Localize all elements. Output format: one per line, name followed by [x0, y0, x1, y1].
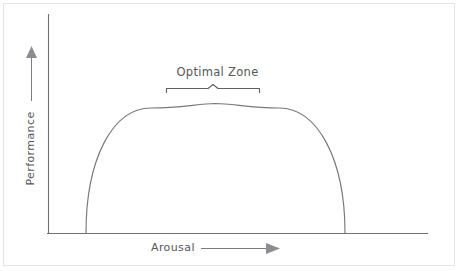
arrow-right-icon	[266, 243, 280, 254]
inverted-u-curve	[86, 104, 345, 234]
optimal-zone-label: Optimal Zone	[155, 65, 280, 79]
y-axis-label: Performance	[24, 94, 37, 204]
plot-svg	[0, 0, 465, 271]
curly-brace-icon	[167, 85, 260, 93]
chart-canvas: Optimal Zone Performance Arousal	[0, 0, 465, 271]
arrow-up-icon	[26, 46, 37, 58]
x-axis-label: Arousal	[151, 241, 195, 254]
